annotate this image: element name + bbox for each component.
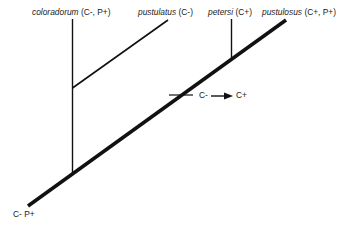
transition-to-label: C+ (236, 91, 247, 99)
taxon-traits: (C+, P+) (304, 7, 336, 17)
taxon-label-coloradorum: coloradorum (C-, P+) (32, 8, 110, 16)
phylogeny-diagram (0, 0, 351, 227)
taxon-traits: (C-) (179, 7, 193, 17)
pustulatus-branch (73, 20, 169, 88)
taxon-traits: (C-, P+) (81, 7, 111, 17)
taxon-traits: (C+) (235, 7, 252, 17)
taxon-label-pustulatus: pustulatus (C-) (138, 8, 193, 16)
main-trunk-line (28, 20, 286, 206)
root-label: C- P+ (13, 210, 35, 218)
taxon-label-pustulosus: pustulosus (C+, P+) (262, 8, 336, 16)
arrow-head-icon (224, 93, 233, 100)
taxon-name: coloradorum (32, 7, 79, 17)
taxon-name: petersi (208, 7, 233, 17)
taxon-name: pustulosus (262, 7, 302, 17)
transition-from-label: C- (199, 91, 208, 99)
taxon-name: pustulatus (138, 7, 176, 17)
taxon-label-petersi: petersi (C+) (208, 8, 252, 16)
